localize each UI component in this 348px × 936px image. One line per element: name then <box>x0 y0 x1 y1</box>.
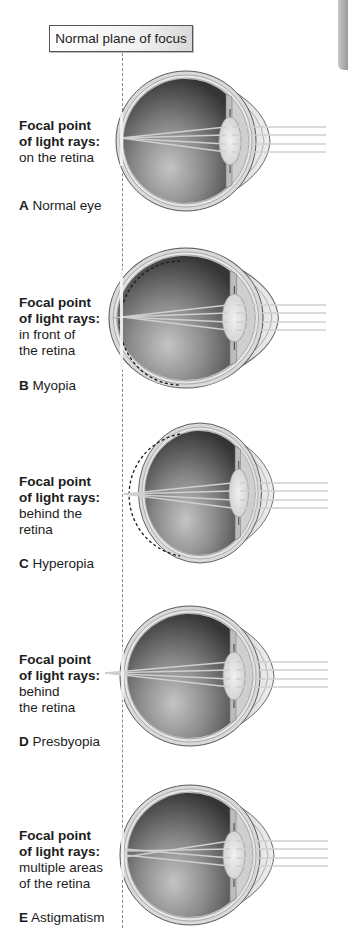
caption-letter-c: C <box>19 556 29 571</box>
focal-detail-e2: of the retina <box>19 876 90 891</box>
caption-c: C Hyperopia <box>19 556 94 572</box>
caption-name-e: Astigmatism <box>31 910 105 925</box>
focal-heading-d2: of light rays: <box>19 668 100 683</box>
focal-heading-a1: Focal point <box>19 118 91 133</box>
focal-heading-c2: of light rays: <box>19 490 100 505</box>
focal-detail-d1: behind <box>19 684 60 699</box>
caption-e: E Astigmatism <box>19 910 105 926</box>
caption-name-c: Hyperopia <box>33 556 95 571</box>
caption-name-a: Normal eye <box>33 198 102 213</box>
caption-letter-e: E <box>19 910 28 925</box>
caption-letter-d: D <box>19 734 29 749</box>
focal-detail-a1: on the retina <box>19 150 94 165</box>
focal-detail-d2: the retina <box>19 700 75 715</box>
focal-detail-c1: behind the <box>19 506 82 521</box>
focal-point-label-a: Focal point of light rays: on the retina <box>19 118 100 166</box>
caption-d: D Presbyopia <box>19 734 100 750</box>
focal-point-label-e: Focal point of light rays: multiple area… <box>19 828 103 892</box>
focal-heading-e2: of light rays: <box>19 844 100 859</box>
focal-point-label-c: Focal point of light rays: behind the re… <box>19 474 100 538</box>
focal-detail-c2: retina <box>19 522 53 537</box>
focal-heading-d1: Focal point <box>19 652 91 667</box>
caption-b: B Myopia <box>19 378 76 394</box>
focal-detail-b1: in front of <box>19 327 75 342</box>
focal-point-label-b: Focal point of light rays: in front of t… <box>19 295 100 359</box>
focal-heading-a2: of light rays: <box>19 134 100 149</box>
focal-detail-b2: the retina <box>19 343 75 358</box>
focal-heading-b2: of light rays: <box>19 311 100 326</box>
caption-a: A Normal eye <box>19 198 102 214</box>
focal-heading-c1: Focal point <box>19 474 91 489</box>
focal-detail-e1: multiple areas <box>19 860 103 875</box>
caption-letter-b: B <box>19 378 29 393</box>
caption-letter-a: A <box>19 198 29 213</box>
focal-heading-e1: Focal point <box>19 828 91 843</box>
focal-heading-b1: Focal point <box>19 295 91 310</box>
caption-name-b: Myopia <box>33 378 77 393</box>
caption-name-d: Presbyopia <box>33 734 101 749</box>
focal-point-label-d: Focal point of light rays: behind the re… <box>19 652 100 716</box>
eye-presbyopia <box>120 606 274 746</box>
